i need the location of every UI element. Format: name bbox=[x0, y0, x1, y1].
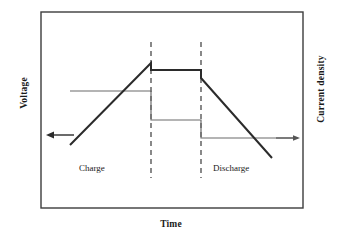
region-label-charge: Charge bbox=[79, 163, 105, 173]
y-axis-label-voltage: Voltage bbox=[19, 63, 29, 123]
figure-background bbox=[0, 0, 339, 242]
charge-discharge-diagram bbox=[0, 0, 339, 242]
region-label-discharge: Discharge bbox=[213, 163, 249, 173]
x-axis-label-time: Time bbox=[141, 219, 201, 229]
y2-axis-label-current-density: Current density bbox=[316, 54, 326, 124]
